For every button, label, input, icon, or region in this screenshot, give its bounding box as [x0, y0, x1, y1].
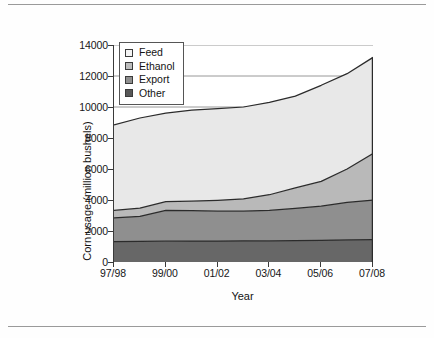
- x-axis-tickmark: [113, 262, 114, 267]
- stacked-area-chart: 02000400060008000100001200014000 Corn us…: [0, 0, 434, 338]
- legend-item-feed[interactable]: Feed: [125, 46, 175, 60]
- x-axis-tickmark: [372, 262, 373, 267]
- figure-page: 02000400060008000100001200014000 Corn us…: [0, 0, 434, 338]
- x-axis-tick-label: 97/98: [91, 268, 135, 279]
- x-axis-tickmark: [165, 262, 166, 267]
- legend-item-ethanol[interactable]: Ethanol: [125, 60, 175, 74]
- x-axis-tickmark: [320, 262, 321, 267]
- y-axis-title-wrap: Corn usage (million bushels): [47, 45, 65, 262]
- chart-legend: FeedEthanolExportOther: [119, 42, 184, 105]
- x-axis-tick-label: 01/02: [195, 268, 239, 279]
- x-axis-tickmark: [217, 262, 218, 267]
- legend-item-other[interactable]: Other: [125, 87, 175, 101]
- x-axis-tick-label: 05/06: [298, 268, 342, 279]
- area-band-other: [114, 240, 373, 262]
- legend-item-label: Other: [139, 88, 165, 99]
- legend-item-label: Feed: [139, 47, 163, 58]
- x-axis-tick-label: 99/00: [143, 268, 187, 279]
- legend-swatch-icon: [125, 76, 133, 84]
- x-axis-tick-label: 03/04: [246, 268, 290, 279]
- legend-item-label: Ethanol: [139, 61, 175, 72]
- x-axis-tickmark: [268, 262, 269, 267]
- legend-swatch-icon: [125, 49, 133, 57]
- legend-swatch-icon: [125, 62, 133, 70]
- x-axis-tick-label: 07/08: [350, 268, 394, 279]
- legend-item-label: Export: [139, 74, 169, 85]
- legend-item-export[interactable]: Export: [125, 73, 175, 87]
- legend-swatch-icon: [125, 89, 133, 97]
- x-axis-title: Year: [113, 290, 372, 302]
